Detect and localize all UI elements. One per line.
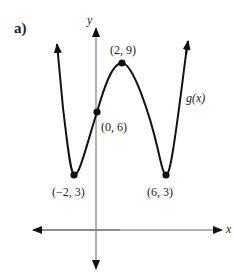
label-min-left: (−2, 3) <box>52 185 85 200</box>
point-min-left <box>70 171 77 178</box>
y-axis-label: y <box>87 13 92 28</box>
left-end-arrow <box>57 44 63 108</box>
label-min-right: (6, 3) <box>147 185 173 200</box>
x-axis-label: x <box>226 222 231 237</box>
function-label: g(x) <box>186 91 205 106</box>
right-end-arrow <box>186 41 188 55</box>
graph-canvas <box>0 0 234 272</box>
function-curve-g <box>63 46 187 175</box>
label-y-intercept: (0, 6) <box>101 120 127 135</box>
label-max: (2, 9) <box>110 43 136 58</box>
point-max <box>118 59 125 66</box>
point-y-intercept <box>93 108 100 115</box>
part-label: a) <box>14 20 27 37</box>
point-min-right <box>162 171 169 178</box>
